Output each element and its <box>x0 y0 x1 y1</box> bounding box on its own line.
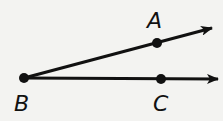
angle-diagram: A B C <box>0 0 223 121</box>
ray-ba <box>24 28 212 78</box>
label-b: B <box>14 91 29 116</box>
ray-bc <box>24 78 218 79</box>
point-c-dot <box>156 74 166 84</box>
label-c: C <box>153 91 169 116</box>
point-a-dot <box>152 38 162 48</box>
label-a: A <box>145 8 162 33</box>
point-b-dot <box>19 73 29 83</box>
